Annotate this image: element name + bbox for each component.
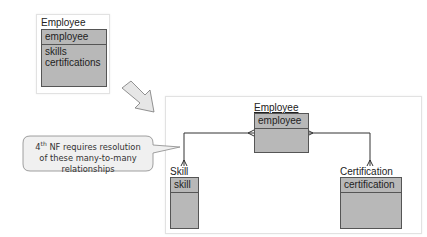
callout-line1: NF requires resolution bbox=[47, 142, 141, 152]
callout-bubble bbox=[0, 0, 427, 237]
callout-line3: relationships bbox=[14, 164, 162, 175]
callout-line2: of these many-to-many bbox=[14, 153, 162, 164]
